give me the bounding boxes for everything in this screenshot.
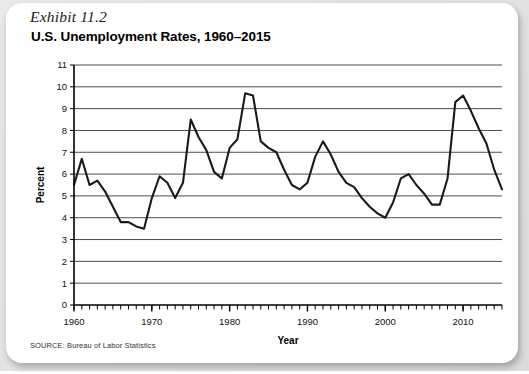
exhibit-card: Exhibit 11.2 U.S. Unemployment Rates, 19… (6, 3, 518, 363)
x-axis-tick-labels: 196019701980199020002010 (63, 316, 473, 327)
y-tick-label: 2 (62, 256, 67, 267)
y-tick-label: 6 (62, 168, 67, 179)
unemployment-rate-line (74, 93, 502, 228)
source-note: SOURCE: Bureau of Labor Statistics (30, 341, 156, 350)
y-tick-label: 7 (62, 147, 67, 158)
y-tick-label: 5 (62, 190, 67, 201)
y-axis-tick-labels: 01234567891011 (56, 59, 74, 310)
y-tick-label: 3 (62, 234, 67, 245)
gridlines (74, 65, 502, 283)
y-tick-label: 11 (57, 59, 67, 70)
x-tick-label: 1980 (219, 316, 240, 327)
x-tick-label: 1960 (63, 316, 84, 327)
y-tick-label: 4 (62, 212, 67, 223)
unemployment-line-chart: 01234567891011 196019701980199020002010 … (6, 3, 529, 374)
x-tick-label: 1990 (297, 316, 318, 327)
x-axis-title: Year (277, 335, 298, 346)
y-tick-label: 0 (62, 299, 67, 310)
y-tick-label: 10 (56, 81, 67, 92)
x-tick-label: 2000 (375, 316, 396, 327)
x-tick-label: 1970 (141, 316, 162, 327)
y-tick-label: 8 (62, 125, 67, 136)
y-tick-label: 9 (62, 103, 67, 114)
y-axis-title: Percent (35, 166, 46, 203)
x-tick-label: 2010 (453, 316, 474, 327)
y-tick-label: 1 (62, 278, 67, 289)
